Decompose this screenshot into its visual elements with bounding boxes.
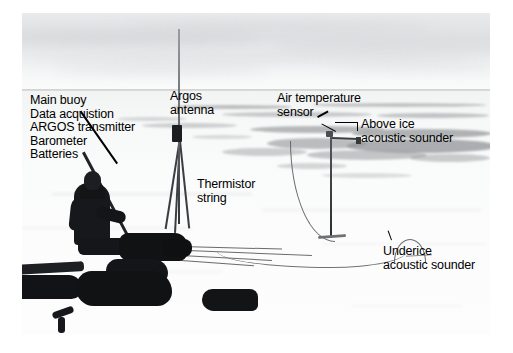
cloud-band	[132, 21, 432, 33]
annotation-line: acoustic sounder	[383, 259, 475, 273]
annotation-line: ARGOS transmitter	[30, 121, 135, 135]
leader-line-above-ice-sounder-horz	[335, 122, 358, 123]
cloud-band	[52, 65, 272, 74]
melt-pond	[322, 173, 412, 178]
air-temperature-sensor-pole	[330, 135, 332, 238]
annotation-line: Data acquistion	[30, 108, 135, 122]
annotation-line: Above ice	[361, 118, 453, 132]
figure-page: Main buoy Data acquistion ARGOS transmit…	[0, 0, 513, 353]
annotation-above-ice-acoustic-sounder: Above ice acoustic sounder	[361, 118, 453, 145]
annotation-main-buoy: Main buoy Data acquistion ARGOS transmit…	[30, 94, 135, 162]
annotation-line: Underice	[383, 245, 475, 259]
annotation-argos-antenna: Argos antenna	[170, 90, 214, 117]
annotation-line: Thermistor	[197, 178, 255, 192]
equipment-item	[58, 317, 65, 333]
annotation-line: Main buoy	[30, 94, 135, 108]
melt-pond	[192, 135, 252, 139]
annotation-line: Barometer	[30, 135, 135, 149]
melt-pond	[142, 123, 237, 128]
snow-texture	[352, 305, 462, 307]
melt-pond	[410, 154, 490, 162]
equipment-bag	[76, 271, 172, 306]
annotation-air-temperature-sensor: Air temperature sensor	[277, 92, 361, 119]
annotation-line: Argos	[170, 90, 214, 104]
equipment-bag	[202, 289, 258, 311]
snow-texture	[262, 209, 482, 211]
cloud-band	[322, 63, 490, 71]
annotation-thermistor-string: Thermistor string	[197, 178, 255, 205]
annotation-underice-acoustic-sounder: Underice acoustic sounder	[383, 245, 475, 272]
equipment-bag	[22, 275, 82, 299]
annotation-line: sensor	[277, 106, 361, 120]
annotation-line: antenna	[170, 104, 214, 118]
person-head	[84, 171, 101, 190]
photograph	[22, 13, 490, 335]
buoy-electronics-case	[162, 239, 192, 257]
air-temperature-sensor-head	[326, 131, 333, 137]
argos-antenna-housing	[172, 125, 182, 142]
cloud-band	[22, 53, 490, 63]
annotation-line: string	[197, 192, 255, 206]
annotation-line: Air temperature	[277, 92, 361, 106]
annotation-line: Batteries	[30, 148, 135, 162]
annotation-line: acoustic sounder	[361, 132, 453, 146]
